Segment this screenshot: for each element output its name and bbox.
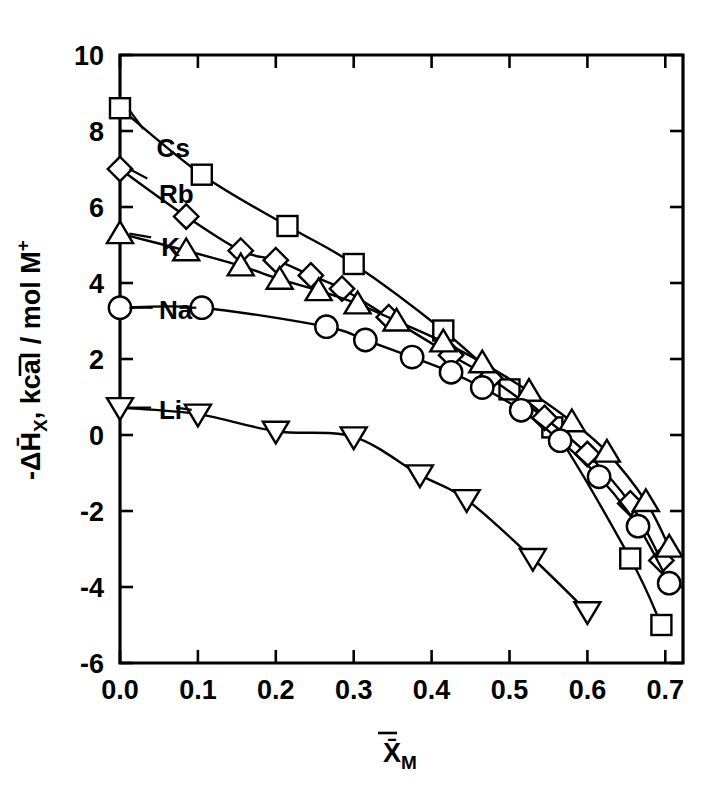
marker-circle <box>401 346 423 368</box>
series-label-li: Li <box>159 395 182 425</box>
marker-triangle-down <box>454 490 480 512</box>
series-na <box>109 297 681 595</box>
svg-text:X̄M: X̄M <box>383 738 417 773</box>
chart-svg: -6-4-20246810 0.00.10.20.30.40.50.60.7 C… <box>0 0 722 792</box>
x-axis-title-main: X̄ <box>383 738 401 768</box>
svg-text:-ΔH̄X, kcal / mol M+: -ΔH̄X, kcal / mol M+ <box>12 240 51 480</box>
marker-square <box>277 216 297 236</box>
marker-diamond <box>264 248 288 272</box>
x-axis-tick-label: 0.7 <box>647 675 685 705</box>
y-axis-tick-label: -2 <box>80 497 104 527</box>
marker-circle <box>510 399 532 421</box>
series-label-cs: Cs <box>157 133 190 163</box>
marker-diamond <box>108 157 132 181</box>
series-li <box>107 398 600 624</box>
series-rb <box>108 157 674 573</box>
marker-triangle-down <box>341 427 367 449</box>
y-axis-tick-label: 4 <box>89 269 104 299</box>
chart-figure: -6-4-20246810 0.00.10.20.30.40.50.60.7 C… <box>0 0 722 792</box>
x-axis-title-subscript: M <box>401 752 417 773</box>
series-cs <box>110 98 671 635</box>
marker-square <box>620 549 640 569</box>
x-axis-tick-label: 0.4 <box>413 675 451 705</box>
x-axis-tick-label: 0.3 <box>335 675 373 705</box>
series-label-na: Na <box>159 295 193 325</box>
marker-triangle-down <box>574 602 600 624</box>
y-axis-title: -ΔH̄X, kcal / mol M+ <box>12 240 51 480</box>
marker-circle <box>627 515 649 537</box>
marker-triangle-up <box>107 221 133 243</box>
y-axis-title-subscript: X <box>30 419 51 432</box>
y-axis-title-superscript: + <box>12 240 33 251</box>
marker-circle <box>354 329 376 351</box>
series-label-k: K <box>161 232 180 262</box>
x-axis-tick-label: 0.1 <box>179 675 217 705</box>
marker-circle <box>440 361 462 383</box>
x-axis-tick-label: 0.2 <box>257 675 295 705</box>
marker-triangle-down <box>407 465 433 487</box>
marker-circle <box>549 430 571 452</box>
y-axis-tick-label: 0 <box>89 421 104 451</box>
x-axis-tick-labels: 0.00.10.20.30.40.50.60.7 <box>101 675 684 705</box>
x-axis-tick-label: 0.5 <box>491 675 529 705</box>
series-label-rb: Rb <box>159 179 194 209</box>
series-leader-cs <box>129 110 143 129</box>
series-line-rb <box>120 169 661 560</box>
x-axis-title: X̄M <box>378 733 417 773</box>
y-axis-tick-labels: -6-4-20246810 <box>74 41 104 679</box>
y-axis-title-rest: , kcal / mol M <box>16 251 46 419</box>
marker-circle <box>109 297 131 319</box>
x-axis-tick-label: 0.0 <box>101 675 139 705</box>
marker-circle <box>315 316 337 338</box>
marker-triangle-up <box>656 535 682 557</box>
series-k <box>107 221 682 556</box>
marker-circle <box>658 572 680 594</box>
y-axis-tick-label: -4 <box>80 573 104 603</box>
marker-square <box>651 615 671 635</box>
marker-triangle-up <box>228 254 254 276</box>
marker-circle <box>471 376 493 398</box>
y-axis-title-main: -ΔH̄ <box>16 432 46 480</box>
y-axis-tick-label: 6 <box>89 193 104 223</box>
marker-square <box>110 98 130 118</box>
y-axis-tick-label: 10 <box>74 41 104 71</box>
series-inline-labels: CsRbKNaLi <box>129 110 196 425</box>
marker-square <box>344 254 364 274</box>
marker-triangle-up <box>267 267 293 289</box>
series-line-k <box>120 234 669 547</box>
y-axis-tick-label: 8 <box>89 117 104 147</box>
marker-square <box>192 165 212 185</box>
marker-circle <box>588 466 610 488</box>
y-axis-tick-label: 2 <box>89 345 104 375</box>
x-axis-tick-label: 0.6 <box>569 675 607 705</box>
marker-triangle-up <box>469 351 495 373</box>
